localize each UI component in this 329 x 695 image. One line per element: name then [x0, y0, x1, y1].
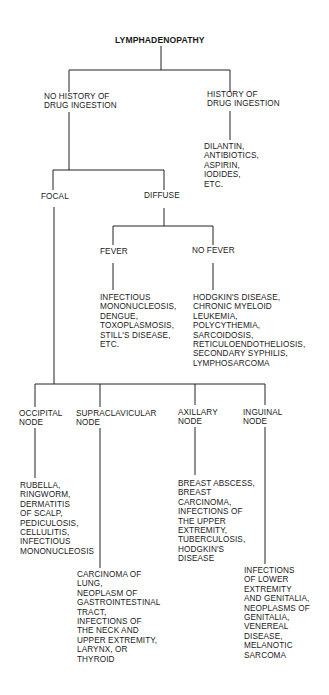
no-fever-causes-list: HODGKIN'S DISEASE, CHRONIC MYELOID LEUKE…: [193, 293, 305, 368]
fever-causes-list: INFECTIOUS MONONUCLEOSIS, DENGUE, TOXOPL…: [100, 293, 176, 349]
node-diffuse: DIFFUSE: [144, 191, 180, 200]
node-no-fever: NO FEVER: [192, 246, 235, 255]
node-supraclavicular: SUPRACLAVICULAR NODE: [76, 409, 157, 428]
node-no-history-of-drug-ingestion: NO HISTORY OF DRUG INGESTION: [44, 92, 117, 111]
root-lymphadenopathy: LYMPHADENOPATHY: [115, 36, 205, 45]
node-axillary: AXILLARY NODE: [178, 408, 218, 427]
node-occipital: OCCIPITAL NODE: [19, 409, 63, 428]
node-focal: FOCAL: [41, 192, 69, 201]
node-fever: FEVER: [100, 247, 128, 256]
occipital-causes-list: RUBELLA, RINGWORM, DERMATITIS OF SCALP, …: [20, 481, 94, 556]
node-history-of-drug-ingestion: HISTORY OF DRUG INGESTION: [207, 90, 280, 109]
node-inguinal: INGUINAL NODE: [243, 408, 282, 427]
drug-causes-list: DILANTIN, ANTIBIOTICS, ASPIRIN, IODIDES,…: [204, 142, 259, 189]
inguinal-causes-list: INFECTIONS OF LOWER EXTREMITY AND GENITA…: [244, 566, 310, 660]
supraclavicular-causes-list: CARCINOMA OF LUNG, NEOPLASM OF GASTROINT…: [77, 570, 161, 664]
axillary-causes-list: BREAST ABSCESS, BREAST CARCINOMA, INFECT…: [178, 479, 255, 564]
